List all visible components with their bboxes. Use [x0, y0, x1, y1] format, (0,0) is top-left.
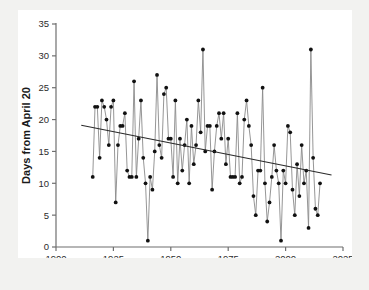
data-point [155, 73, 159, 77]
y-tick-label: 5 [44, 210, 49, 221]
data-point [125, 169, 129, 173]
x-tick-label: 1925 [103, 253, 124, 258]
data-point [185, 118, 189, 122]
data-point [123, 111, 127, 115]
data-point [295, 162, 299, 166]
data-point [300, 143, 304, 147]
data-point [112, 99, 116, 103]
data-point [164, 86, 168, 90]
y-tick-label: 30 [38, 50, 49, 61]
data-point [254, 213, 258, 217]
data-point [95, 105, 99, 109]
data-point [173, 99, 177, 103]
data-point [293, 213, 297, 217]
series-line [93, 49, 320, 240]
data-point [219, 137, 223, 141]
data-point [160, 156, 164, 160]
data-point [286, 124, 290, 128]
data-point [249, 143, 253, 147]
data-point [233, 175, 237, 179]
data-point [235, 111, 239, 115]
data-point [217, 111, 221, 115]
data-point [132, 79, 136, 83]
x-tick-label: 2000 [275, 253, 296, 258]
data-point [318, 181, 322, 185]
data-point [275, 169, 279, 173]
data-point [169, 137, 173, 141]
x-tick-label: 1950 [160, 253, 181, 258]
y-tick-label: 25 [38, 82, 49, 93]
data-point [222, 111, 226, 115]
data-point [139, 99, 143, 103]
y-axis-title: Days from April 20 [20, 87, 32, 184]
data-point [247, 124, 251, 128]
data-point [134, 175, 138, 179]
x-tick-label: 1975 [218, 253, 239, 258]
data-point [252, 194, 256, 198]
data-point [265, 220, 269, 224]
data-point [240, 175, 244, 179]
data-point [238, 181, 242, 185]
data-point [98, 156, 102, 160]
data-point [215, 124, 219, 128]
data-point [314, 207, 318, 211]
y-tick-label: 0 [44, 241, 49, 252]
data-point [151, 188, 155, 192]
chart-page: 05101520253035190019251950197520002025Ye… [0, 0, 369, 290]
data-point [281, 169, 285, 173]
data-point [121, 124, 125, 128]
data-point [102, 105, 106, 109]
data-point [270, 175, 274, 179]
y-tick-label: 35 [38, 18, 49, 29]
data-point [199, 130, 203, 134]
data-point [105, 118, 109, 122]
data-point [146, 239, 150, 243]
x-tick-label: 2025 [332, 253, 352, 258]
data-point [261, 86, 265, 90]
data-point [187, 181, 191, 185]
y-tick-label: 20 [38, 114, 49, 125]
data-point [279, 239, 283, 243]
data-point [157, 143, 161, 147]
data-point [176, 181, 180, 185]
data-point [162, 92, 166, 96]
data-point [245, 99, 249, 103]
data-point [210, 188, 214, 192]
chart-canvas: 05101520253035190019251950197520002025Ye… [18, 10, 352, 258]
data-point [291, 188, 295, 192]
y-tick-label: 10 [38, 178, 49, 189]
data-point [302, 181, 306, 185]
data-point [208, 124, 212, 128]
data-point [311, 156, 315, 160]
data-point [192, 162, 196, 166]
data-point [268, 201, 272, 205]
trend-line [81, 125, 331, 175]
y-tick-label: 15 [38, 146, 49, 157]
data-point [116, 143, 120, 147]
data-point [153, 150, 157, 154]
data-point [307, 226, 311, 230]
data-point [272, 143, 276, 147]
data-point [91, 175, 95, 179]
data-point [144, 181, 148, 185]
data-point [196, 99, 200, 103]
data-point [109, 105, 113, 109]
data-point [226, 137, 230, 141]
data-point [309, 48, 313, 52]
x-tick-label: 1900 [45, 253, 66, 258]
data-point [141, 156, 145, 160]
data-point [100, 99, 104, 103]
data-point [114, 201, 118, 205]
data-point [194, 143, 198, 147]
data-point [242, 118, 246, 122]
data-point [190, 124, 194, 128]
data-point [107, 143, 111, 147]
data-point [201, 48, 205, 52]
data-point [316, 213, 320, 217]
data-point [297, 194, 301, 198]
data-point [263, 181, 267, 185]
data-point [277, 181, 281, 185]
data-point [288, 130, 292, 134]
data-point [148, 175, 152, 179]
scatter-line-chart: 05101520253035190019251950197520002025Ye… [18, 10, 352, 258]
